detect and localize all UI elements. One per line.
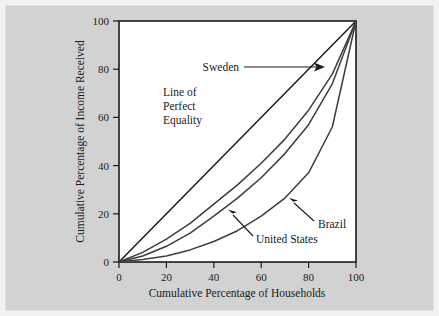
x-tick-label-100: 100 bbox=[348, 271, 365, 283]
annotation-perfect-equality-line-2: Perfect bbox=[163, 100, 196, 112]
annotation-perfect-equality-line-1: Line of bbox=[163, 86, 197, 98]
x-tick-label-40: 40 bbox=[208, 271, 220, 283]
y-tick-label-0: 0 bbox=[104, 256, 110, 268]
lorenz-curve-figure: 0 20 40 60 80 100 0 20 40 60 80 100 Cumu… bbox=[0, 0, 439, 316]
annotation-united-states-label: United States bbox=[256, 233, 318, 245]
y-axis-tick-labels: 0 20 40 60 80 100 bbox=[93, 15, 110, 268]
x-tick-label-0: 0 bbox=[116, 271, 122, 283]
y-tick-label-80: 80 bbox=[98, 63, 110, 75]
lorenz-curve-plot: 0 20 40 60 80 100 0 20 40 60 80 100 Cumu… bbox=[0, 0, 439, 316]
y-tick-label-20: 20 bbox=[98, 208, 110, 220]
y-tick-label-40: 40 bbox=[98, 160, 110, 172]
x-axis-title: Cumulative Percentage of Households bbox=[149, 287, 326, 300]
annotation-brazil-label: Brazil bbox=[318, 218, 346, 230]
x-tick-label-60: 60 bbox=[256, 271, 268, 283]
x-axis-ticks bbox=[119, 262, 356, 268]
y-tick-label-60: 60 bbox=[98, 111, 110, 123]
annotation-sweden-label: Sweden bbox=[203, 61, 240, 73]
x-tick-label-20: 20 bbox=[161, 271, 173, 283]
x-tick-label-80: 80 bbox=[303, 271, 315, 283]
annotation-perfect-equality-line-3: Equality bbox=[163, 114, 202, 127]
y-axis-ticks bbox=[113, 21, 119, 262]
y-tick-label-100: 100 bbox=[93, 15, 110, 27]
x-axis-tick-labels: 0 20 40 60 80 100 bbox=[116, 271, 365, 283]
y-axis-title: Cumulative Percentage of Income Received bbox=[74, 40, 87, 243]
